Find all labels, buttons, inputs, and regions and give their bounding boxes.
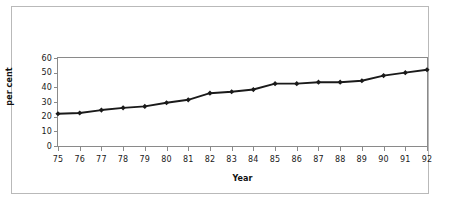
x-axis-tick-label: 77 — [91, 155, 111, 165]
x-axis-tick-mark — [188, 147, 189, 151]
y-axis-tick-labels: 0102030405060 — [30, 50, 52, 154]
plot-area — [57, 57, 428, 147]
x-axis-tick-label: 75 — [48, 155, 68, 165]
x-axis-tick-mark — [297, 147, 298, 151]
x-axis-tick-mark — [232, 147, 233, 151]
x-axis-tick-mark — [253, 147, 254, 151]
data-point-marker — [381, 73, 386, 78]
x-axis-tick-label: 78 — [113, 155, 133, 165]
line-chart: per cent 0102030405060 75767778798081828… — [0, 0, 452, 213]
y-axis-title: per cent — [5, 65, 14, 109]
data-point-marker — [207, 91, 212, 96]
x-axis-title: Year — [57, 174, 428, 183]
data-point-marker — [403, 70, 408, 75]
y-axis-tick-label: 40 — [30, 83, 52, 92]
x-axis-tick-mark — [318, 147, 319, 151]
x-axis-tick-label: 88 — [330, 155, 350, 165]
data-point-marker — [359, 78, 364, 83]
x-axis-tick-mark — [340, 147, 341, 151]
data-point-marker — [121, 105, 126, 110]
x-axis-tick-mark — [275, 147, 276, 151]
x-axis-tick-label: 79 — [135, 155, 155, 165]
y-axis-tick-label: 50 — [30, 68, 52, 77]
y-axis-tick-label: 60 — [30, 54, 52, 63]
data-point-marker — [77, 110, 82, 115]
x-axis-tick-label: 83 — [222, 155, 242, 165]
data-point-marker — [272, 81, 277, 86]
data-point-marker — [99, 107, 104, 112]
data-point-marker — [229, 89, 234, 94]
x-axis-tick-label: 86 — [287, 155, 307, 165]
data-point-marker — [316, 80, 321, 85]
x-axis-tick-mark — [80, 147, 81, 151]
x-axis-tick-label: 76 — [70, 155, 90, 165]
data-point-marker — [186, 97, 191, 102]
y-axis-tick-label: 30 — [30, 98, 52, 107]
series-polyline — [58, 70, 427, 114]
data-point-marker — [55, 111, 60, 116]
x-axis-tick-mark — [405, 147, 406, 151]
x-axis-tick-labels: 757677787980818283848586878889909192 — [57, 155, 428, 167]
x-axis-tick-label: 92 — [417, 155, 437, 165]
x-axis-tick-mark — [101, 147, 102, 151]
data-point-marker — [338, 80, 343, 85]
x-axis-tick-mark — [384, 147, 385, 151]
x-axis-tick-label: 90 — [374, 155, 394, 165]
data-point-marker — [251, 87, 256, 92]
x-axis-tick-label: 89 — [352, 155, 372, 165]
x-axis-tick-label: 91 — [395, 155, 415, 165]
x-axis-tick-label: 84 — [243, 155, 263, 165]
y-axis-tick-label: 10 — [30, 127, 52, 136]
x-axis-tick-label: 82 — [200, 155, 220, 165]
x-axis-tick-mark — [167, 147, 168, 151]
x-axis-tick-label: 87 — [308, 155, 328, 165]
series-line-per-cent — [58, 58, 427, 146]
x-axis-tick-label: 81 — [178, 155, 198, 165]
x-axis-tick-mark — [145, 147, 146, 151]
x-axis-tick-marks — [57, 147, 428, 152]
x-axis-tick-mark — [123, 147, 124, 151]
data-point-marker — [424, 67, 429, 72]
x-axis-tick-label: 80 — [157, 155, 177, 165]
y-axis-tick-label: 20 — [30, 112, 52, 121]
data-point-marker — [142, 104, 147, 109]
x-axis-tick-mark — [362, 147, 363, 151]
y-axis-tick-label: 0 — [30, 142, 52, 151]
x-axis-tick-mark — [210, 147, 211, 151]
data-point-marker — [294, 81, 299, 86]
x-axis-tick-mark — [427, 147, 428, 151]
x-axis-tick-mark — [58, 147, 59, 151]
x-axis-tick-label: 85 — [265, 155, 285, 165]
data-point-marker — [164, 100, 169, 105]
